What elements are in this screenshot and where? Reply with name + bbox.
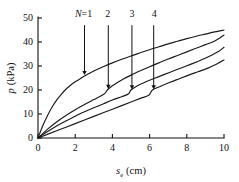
y-tick-label-40: 40 bbox=[23, 36, 33, 47]
y-axis-symbol: p bbox=[5, 88, 16, 94]
y-tick-label-0: 0 bbox=[28, 132, 33, 143]
svg-text:p(kPa): p(kPa) bbox=[5, 62, 17, 94]
annotation-N4-label: 4 bbox=[152, 8, 157, 19]
y-tick-label-20: 20 bbox=[23, 84, 33, 95]
y-axis-unit: (kPa) bbox=[5, 62, 17, 85]
x-tick-label-2: 2 bbox=[73, 142, 78, 153]
x-axis-subscript: e bbox=[120, 171, 123, 178]
y-axis-title: p(kPa) bbox=[5, 62, 17, 94]
y-tick-label-50: 50 bbox=[23, 12, 33, 23]
x-tick-label-6: 6 bbox=[147, 142, 152, 153]
chart-background bbox=[0, 0, 239, 182]
x-axis-unit: (cm) bbox=[126, 165, 146, 177]
y-tick-label-10: 10 bbox=[23, 108, 33, 119]
x-tick-label-4: 4 bbox=[110, 142, 115, 153]
x-tick-label-10: 10 bbox=[219, 142, 229, 153]
y-tick-label-30: 30 bbox=[23, 60, 33, 71]
annotation-N2-label: 2 bbox=[105, 8, 110, 19]
plot-canvas: 010203040500246810 N=1234 p(kPa) se(cm) bbox=[0, 0, 239, 182]
chart-figure: 010203040500246810 N=1234 p(kPa) se(cm) bbox=[0, 0, 239, 182]
annotation-N3-label: 3 bbox=[129, 8, 134, 19]
x-tick-label-8: 8 bbox=[184, 142, 189, 153]
annotation-N1-label: N=1 bbox=[74, 8, 92, 19]
x-tick-label-0: 0 bbox=[36, 142, 41, 153]
